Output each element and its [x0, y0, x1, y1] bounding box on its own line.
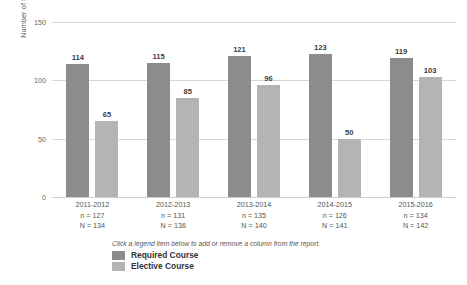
bar-value-label: 115 [153, 52, 165, 61]
bar-value-label: 119 [395, 47, 407, 56]
bar[interactable] [66, 64, 89, 197]
bar-pair: 12196 [214, 22, 295, 197]
x-axis-label-period: 2015-2016 [375, 200, 456, 211]
bar-value-label: 85 [183, 87, 191, 96]
bar-group: 11465 [52, 22, 133, 197]
bar-column[interactable]: 65 [95, 22, 118, 197]
bar-column[interactable]: 119 [390, 22, 413, 197]
legend-item-label: Required Course [131, 250, 198, 260]
bar-column[interactable]: 123 [309, 22, 332, 197]
x-axis-labels: 2011-2012n = 127N = 1342012-2013n = 131N… [52, 200, 456, 232]
legend-item-label: Elective Course [131, 261, 194, 271]
bar-group: 12196 [214, 22, 295, 197]
bar[interactable] [228, 56, 251, 197]
legend-item-required-course[interactable]: Required Course [112, 250, 320, 260]
bar-pair: 12350 [294, 22, 375, 197]
bar-column[interactable]: 114 [66, 22, 89, 197]
bar-group: 119103 [375, 22, 456, 197]
y-axis-title: Number of Medical Schools [18, 0, 30, 57]
x-axis-label-period: 2013-2014 [214, 200, 295, 211]
x-axis-label-count: N = 134 [52, 221, 133, 232]
bar-pair: 11585 [133, 22, 214, 197]
plot-area: 150100500 11465115851219612350119103 [52, 22, 456, 197]
x-axis-label: 2012-2013n = 131N = 136 [133, 200, 214, 232]
x-axis-label-count: n = 131 [133, 211, 214, 222]
x-axis-label: 2013-2014n = 135N = 140 [214, 200, 295, 232]
bar-column[interactable]: 85 [176, 22, 199, 197]
bar-column[interactable]: 50 [338, 22, 361, 197]
bar[interactable] [176, 98, 199, 197]
bar[interactable] [95, 121, 118, 197]
bar-value-label: 114 [72, 53, 84, 62]
bar[interactable] [309, 54, 332, 198]
x-axis-label-count: n = 135 [214, 211, 295, 222]
x-axis-label: 2014-2015n = 126N = 141 [294, 200, 375, 232]
legend-swatch-icon [112, 251, 125, 260]
x-axis-label-count: N = 140 [214, 221, 295, 232]
legend-swatch-icon [112, 262, 125, 271]
x-axis-label-period: 2014-2015 [294, 200, 375, 211]
x-axis-label-count: n = 127 [52, 211, 133, 222]
y-tick-label: 0 [42, 193, 46, 202]
legend-item-elective-course[interactable]: Elective Course [112, 261, 320, 271]
x-axis-line: 0 [52, 197, 456, 198]
y-tick-label: 100 [34, 76, 46, 85]
y-tick-label: 150 [34, 18, 46, 27]
bar-group: 11585 [133, 22, 214, 197]
bar-column[interactable]: 121 [228, 22, 251, 197]
bar-value-label: 123 [314, 43, 327, 52]
bar-group: 12350 [294, 22, 375, 197]
bar-groups: 11465115851219612350119103 [52, 22, 456, 197]
x-axis-label: 2015-2016n = 134N = 142 [375, 200, 456, 232]
bar-pair: 119103 [375, 22, 456, 197]
bar-value-label: 96 [264, 74, 272, 83]
x-axis-label-count: n = 134 [375, 211, 456, 222]
bar-value-label: 65 [103, 110, 111, 119]
bar-value-label: 121 [233, 45, 246, 54]
bar[interactable] [257, 85, 280, 197]
x-axis-label-count: N = 141 [294, 221, 375, 232]
bar-column[interactable]: 96 [257, 22, 280, 197]
x-axis-label-count: N = 136 [133, 221, 214, 232]
bar-pair: 11465 [52, 22, 133, 197]
bar[interactable] [338, 139, 361, 197]
bar-value-label: 103 [424, 66, 437, 75]
y-tick-label: 50 [38, 134, 46, 143]
x-axis-label: 2011-2012n = 127N = 134 [52, 200, 133, 232]
legend: Click a legend item below to add or remo… [112, 240, 320, 271]
x-axis-label-count: n = 126 [294, 211, 375, 222]
bar-chart: Number of Medical Schools 150100500 1146… [0, 0, 467, 285]
bar[interactable] [147, 63, 170, 197]
bar[interactable] [419, 77, 442, 197]
legend-hint-text: Click a legend item below to add or remo… [112, 240, 320, 247]
x-axis-label-count: N = 142 [375, 221, 456, 232]
bar-value-label: 50 [345, 128, 353, 137]
bar-column[interactable]: 103 [419, 22, 442, 197]
x-axis-label-period: 2011-2012 [52, 200, 133, 211]
bar[interactable] [390, 58, 413, 197]
x-axis-label-period: 2012-2013 [133, 200, 214, 211]
bar-column[interactable]: 115 [147, 22, 170, 197]
legend-items: Required CourseElective Course [112, 250, 320, 271]
